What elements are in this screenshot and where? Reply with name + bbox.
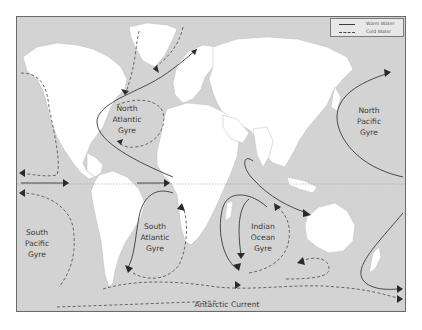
label-south-pacific-gyre: SouthPacificGyre: [25, 228, 49, 259]
world-map: NorthAtlanticGyre NorthPacificGyre South…: [16, 16, 406, 312]
arrow-head: [237, 253, 245, 259]
arrow-head: [384, 69, 391, 77]
label-north-atlantic-gyre: NorthAtlanticGyre: [113, 104, 142, 135]
arrow-head: [19, 169, 25, 177]
label-antarctic-current: Antarctic Current: [195, 300, 260, 309]
south-pacific-gyre-currents: [19, 189, 74, 287]
legend-item-warm-water: Warm Water: [331, 20, 405, 28]
arrow-head: [19, 189, 25, 197]
ocean-currents-map: NorthAtlanticGyre NorthPacificGyre South…: [17, 17, 406, 312]
legend-label: Cold Water: [366, 29, 391, 34]
land-greenland: [129, 23, 177, 67]
land-masses: [17, 23, 406, 312]
solid-line-swatch: [339, 24, 355, 25]
label-north-pacific-gyre: NorthPacificGyre: [357, 106, 381, 137]
legend-item-cold-water: Cold Water: [331, 28, 405, 36]
arrow-head: [63, 179, 69, 187]
indian-ocean-gyre-currents: [220, 159, 311, 273]
map-legend: Warm Water Cold Water: [330, 18, 404, 37]
label-indian-ocean-gyre: IndianOceanGyre: [251, 222, 275, 253]
arrow-head: [397, 285, 403, 293]
land-north-america: [23, 43, 127, 179]
leeuwin-loop-current: [285, 258, 329, 279]
inner-indian-current: [239, 199, 249, 255]
arrow-head: [297, 257, 305, 265]
land-se-asia: [287, 177, 317, 193]
east-australian-current: [361, 213, 403, 289]
dashed-line-swatch: [339, 32, 355, 33]
antarctic-circumpolar-upper: [103, 282, 401, 299]
land-madagascar: [225, 201, 233, 221]
legend-label: Warm Water: [366, 21, 394, 26]
land-antarctica: [17, 311, 406, 312]
arrow-head: [397, 295, 403, 303]
arrow-head: [274, 203, 281, 211]
antarctic-circumpolar-lower: [57, 301, 217, 307]
label-south-atlantic-gyre: SouthAtlanticGyre: [141, 222, 170, 253]
land-australia: [305, 203, 355, 253]
benguela-current: [133, 207, 186, 278]
